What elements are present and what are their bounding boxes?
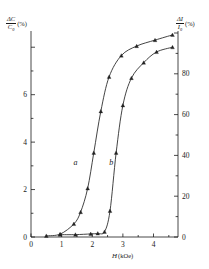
data-point-b (103, 230, 107, 234)
y-tick-left-label: 6 (23, 90, 27, 99)
x-tick-label: 3 (121, 240, 125, 249)
curve-label-b: b (109, 158, 113, 167)
data-point-b (114, 151, 118, 155)
y-tick-right-label: 60 (182, 110, 190, 119)
y-tick-right-label: 80 (182, 69, 190, 78)
data-point-b (155, 50, 159, 54)
data-point-a (92, 151, 96, 155)
curve-label-a: a (73, 158, 77, 167)
y-tick-left-label: 2 (23, 185, 27, 194)
data-point-a (107, 75, 111, 79)
y-tick-left-label: 0 (23, 233, 27, 242)
data-point-a (99, 109, 103, 113)
data-point-b (108, 209, 112, 213)
y-tick-right-label: 0 (182, 233, 186, 242)
plot-canvas: 012340246020406080ab (0, 0, 209, 269)
data-point-a (171, 33, 175, 37)
chart-figure: ΔC C0 (%) ΔI I0 (%) H(kOe) 0123402460204… (0, 0, 209, 269)
curve-a (46, 35, 172, 236)
data-point-a (79, 210, 83, 214)
data-point-b (171, 45, 175, 49)
x-tick-label: 4 (152, 240, 156, 249)
y-tick-right-label: 40 (182, 151, 190, 160)
data-point-b (121, 103, 125, 107)
data-point-b (130, 76, 134, 80)
y-tick-right-label: 20 (182, 192, 190, 201)
curve-b (60, 47, 172, 234)
data-point-a (86, 186, 90, 190)
x-tick-label: 1 (60, 240, 64, 249)
x-tick-label: 2 (90, 240, 94, 249)
x-tick-label: 0 (29, 240, 33, 249)
y-tick-left-label: 4 (23, 138, 27, 147)
